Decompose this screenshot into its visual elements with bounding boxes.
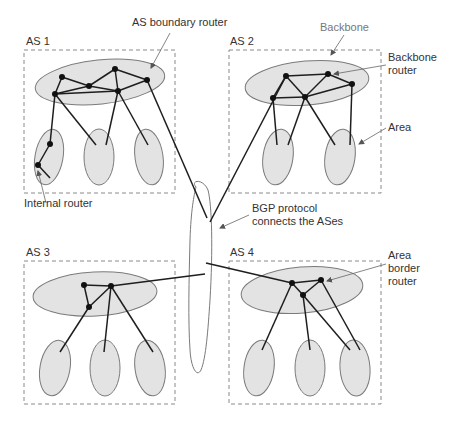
as2-router-icon [325, 71, 331, 77]
bgp-cloud [189, 181, 212, 372]
area-label: Area [388, 121, 412, 133]
bgp-cloud-shape [189, 181, 212, 372]
as3-router-icon [86, 304, 92, 310]
as2-router-icon [283, 73, 289, 79]
as2-link [273, 97, 305, 98]
as1-area-3 [131, 127, 167, 186]
pointer-arrow-icon [331, 35, 344, 55]
bgp-label-2: connects the ASes [252, 215, 344, 227]
as-boundary-router-label: AS boundary router [132, 16, 228, 28]
as1-router-icon [35, 162, 41, 168]
as1-router-icon [52, 91, 58, 97]
as1-router-icon [112, 66, 118, 72]
as1-label: AS 1 [26, 35, 50, 47]
area-border-router-label-3: router [388, 275, 417, 287]
area-border-router-label-2: border [388, 262, 420, 274]
as4-router-icon [300, 292, 306, 298]
backbone-label: Backbone [320, 21, 369, 33]
as4-router-icon [289, 280, 295, 286]
backbone-router-label-1: Backbone [388, 51, 437, 63]
as3-router-icon [81, 282, 87, 288]
as1-router-icon [59, 74, 65, 80]
diagram-canvas: AS 1AS 2AS 3AS 4AS boundary routerBackbo… [0, 0, 451, 429]
as1-router-icon [115, 88, 121, 94]
as2-router-icon [302, 94, 308, 100]
bgp-label-1: BGP protocol [252, 202, 317, 214]
as1-router-icon [47, 141, 53, 147]
as1-area-2 [84, 129, 114, 185]
as4-area-1 [240, 338, 278, 398]
as2-link [305, 97, 335, 145]
as2-router-icon [270, 95, 276, 101]
pointer-arrow-icon [359, 128, 386, 144]
area-border-router-label-1: Area [388, 249, 412, 261]
pointer-arrow-icon [220, 215, 249, 228]
as3-backbone [32, 269, 158, 319]
as3-link [84, 285, 111, 286]
as1-link [118, 91, 148, 145]
backbone-router-label-2: router [388, 64, 417, 76]
ospf-bgp-diagram: AS 1AS 2AS 3AS 4AS boundary routerBackbo… [0, 0, 451, 429]
as4-backbone [239, 262, 365, 318]
as2-router-icon [349, 81, 355, 87]
as2-label: AS 2 [230, 35, 254, 47]
internal-router-label: Internal router [24, 197, 93, 209]
as3-label: AS 3 [26, 246, 50, 258]
as4-label: AS 4 [230, 246, 254, 258]
as4-area-3 [338, 339, 372, 397]
as1-router-icon [86, 83, 92, 89]
as3-area-1 [35, 338, 74, 398]
as4-router-icon [318, 277, 324, 283]
as3-router-icon [108, 283, 114, 289]
as2-area-2 [321, 127, 359, 187]
as1-router-icon [144, 77, 150, 83]
